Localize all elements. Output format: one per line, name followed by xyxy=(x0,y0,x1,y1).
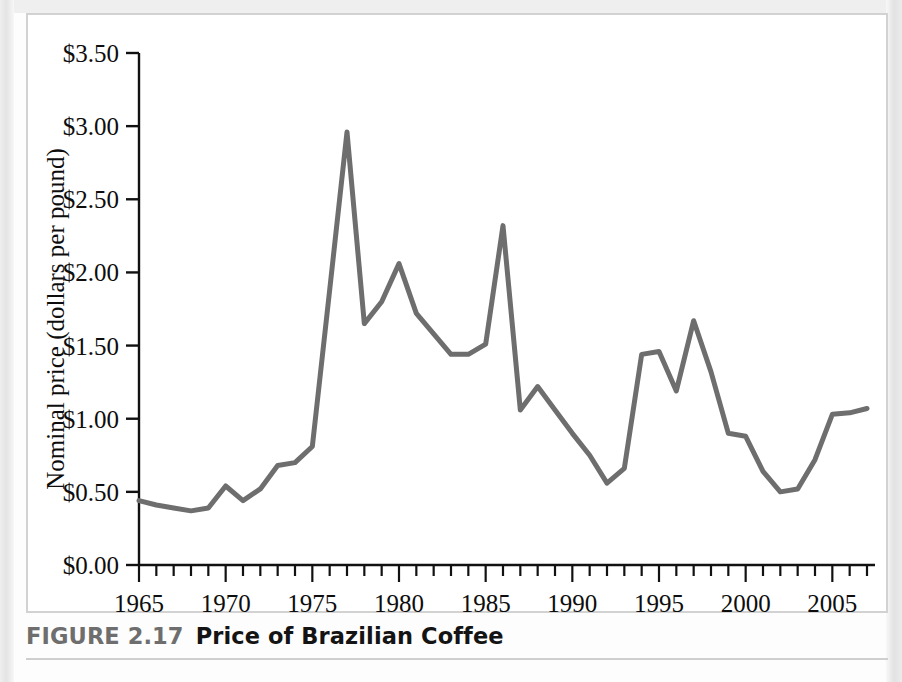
x-axis: 196519701975198019851990199520002005 xyxy=(114,565,875,615)
x-axis-tick-label: 2000 xyxy=(721,590,771,615)
y-axis-tick-label: $2.00 xyxy=(63,259,119,286)
x-axis-tick-label: 1965 xyxy=(114,590,164,615)
y-axis-tick-label: $3.50 xyxy=(63,40,119,67)
figure-title: Price of Brazilian Coffee xyxy=(196,623,504,649)
y-axis-title-label: Nominal price (dollars per pound) xyxy=(42,148,70,490)
x-axis-tick-label: 1990 xyxy=(547,590,597,615)
y-axis-tick-label: $1.50 xyxy=(63,333,119,360)
line-chart: $0.00$0.50$1.00$1.50$2.00$2.50$3.00$3.50… xyxy=(28,15,890,615)
y-axis-tick-label: $3.00 xyxy=(63,113,119,140)
x-axis-tick-label: 1995 xyxy=(634,590,684,615)
page-edge-top xyxy=(0,0,902,13)
price-line xyxy=(139,132,867,511)
x-axis-tick-label: 1975 xyxy=(287,590,337,615)
y-axis-title: Nominal price (dollars per pound) xyxy=(42,148,70,490)
figure-caption: FIGURE 2.17 Price of Brazilian Coffee xyxy=(26,616,888,656)
x-axis-tick-label: 2005 xyxy=(807,590,857,615)
y-axis-tick-label: $2.50 xyxy=(63,186,119,213)
caption-divider xyxy=(26,658,888,660)
figure-panel: $0.00$0.50$1.00$1.50$2.00$2.50$3.00$3.50… xyxy=(26,13,888,613)
figure-number: FIGURE 2.17 xyxy=(26,623,184,649)
x-axis-tick-label: 1980 xyxy=(374,590,424,615)
chart-plot-area: $0.00$0.50$1.00$1.50$2.00$2.50$3.00$3.50… xyxy=(28,15,890,615)
x-axis-tick-label: 1985 xyxy=(461,590,511,615)
figure-page: $0.00$0.50$1.00$1.50$2.00$2.50$3.00$3.50… xyxy=(0,0,902,682)
y-axis-tick-label: $0.00 xyxy=(63,552,119,579)
y-axis: $0.00$0.50$1.00$1.50$2.00$2.50$3.00$3.50 xyxy=(63,40,139,579)
page-edge-left xyxy=(0,0,14,682)
x-axis-tick-label: 1970 xyxy=(201,590,251,615)
y-axis-tick-label: $0.50 xyxy=(63,479,119,506)
y-axis-tick-label: $1.00 xyxy=(63,406,119,433)
price-series xyxy=(139,132,867,511)
